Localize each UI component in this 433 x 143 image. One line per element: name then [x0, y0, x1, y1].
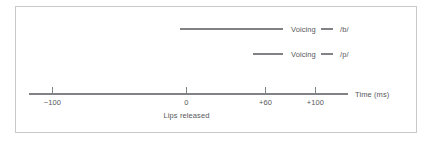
- legend-label-voicing-p: Voicing: [291, 50, 316, 59]
- legend-label-phoneme-p: /p/: [340, 50, 349, 59]
- axis-tick-label-100: +100: [307, 98, 324, 107]
- annotation-lips-released: Lips released: [164, 111, 210, 120]
- axis-tick-label-0: 0: [184, 98, 188, 107]
- figure-plot: [0, 0, 433, 143]
- legend-label-phoneme-b: /b/: [340, 25, 349, 34]
- axis-title-time: Time (ms): [355, 90, 389, 99]
- axis-tick-label-60: +60: [259, 98, 272, 107]
- voice-onset-time-figure: Voicing /b/ Voicing /p/ −100 0 +60 +100 …: [0, 0, 433, 143]
- axis-tick-label--100: −100: [44, 98, 61, 107]
- legend-label-voicing-b: Voicing: [291, 25, 316, 34]
